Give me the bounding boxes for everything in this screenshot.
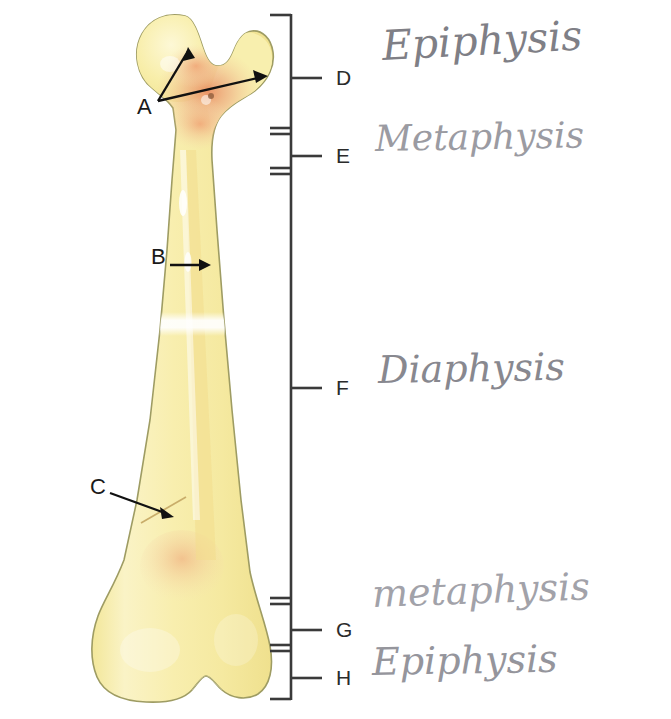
handwritten-answer-d: Epiphysis	[381, 12, 584, 70]
callout-letter-b: B	[151, 244, 166, 270]
highlight-spot-2	[185, 252, 192, 272]
handwritten-answer-g: metaphysis	[371, 564, 590, 616]
region-letter-e: E	[336, 144, 351, 168]
handwritten-answer-f: Diaphysis	[378, 345, 565, 392]
bone-body	[92, 10, 273, 706]
region-letter-h: H	[336, 666, 352, 690]
highlight-spot-1	[179, 190, 187, 216]
callout-letter-a: A	[137, 94, 152, 120]
condyle-highlight-2	[214, 614, 258, 666]
callout-letter-c: C	[90, 474, 106, 500]
handwritten-answer-h: Epiphysis	[372, 637, 558, 684]
handwritten-answer-e: Metaphysis	[375, 114, 585, 159]
red-marrow-subtroch	[166, 98, 234, 150]
shaft-white-band	[120, 312, 250, 336]
diagram-canvas: A B C	[0, 0, 671, 719]
region-letter-g: G	[336, 618, 353, 642]
region-letter-d: D	[336, 66, 352, 90]
bone-speck	[208, 93, 214, 99]
region-letter-f: F	[336, 376, 349, 400]
condyle-highlight	[120, 628, 180, 672]
